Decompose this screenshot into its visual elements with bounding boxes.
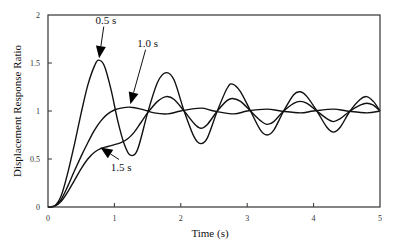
x-tick-label: 5 — [378, 214, 382, 223]
y-tick-label: 0.5 — [30, 155, 40, 164]
y-tick-label: 0 — [36, 203, 40, 212]
line-chart: 0.5 s1.0 s1.5 s 012345 00.511.52 Time (s… — [0, 0, 394, 252]
annotation-label: 1.5 s — [111, 161, 132, 173]
arrowhead-icon — [129, 91, 139, 104]
y-tick-label: 1.5 — [30, 59, 40, 68]
series-line-0-5-s — [48, 60, 380, 207]
x-tick-label: 0 — [46, 214, 50, 223]
arrowhead-icon — [100, 147, 113, 158]
annotation-label: 1.0 s — [137, 37, 158, 49]
x-tick-label: 4 — [312, 214, 316, 223]
annotation-arrow-line — [101, 27, 104, 47]
plot-curves — [48, 60, 380, 207]
x-tick-label: 1 — [112, 214, 116, 223]
y-axis-ticks: 00.511.52 — [30, 11, 52, 212]
annotation-arrow-line — [111, 154, 120, 160]
x-tick-label: 3 — [245, 214, 249, 223]
annotation-arrow-line — [134, 50, 146, 93]
x-axis-title: Time (s) — [191, 227, 229, 240]
x-axis-ticks: 012345 — [46, 203, 382, 223]
arrowhead-icon — [96, 46, 106, 59]
y-axis-title: Displacement Response Ratio — [11, 45, 23, 177]
y-tick-label: 1 — [36, 107, 40, 116]
y-tick-label: 2 — [36, 11, 40, 20]
x-tick-label: 2 — [179, 214, 183, 223]
series-line-1-5-s — [48, 97, 380, 207]
